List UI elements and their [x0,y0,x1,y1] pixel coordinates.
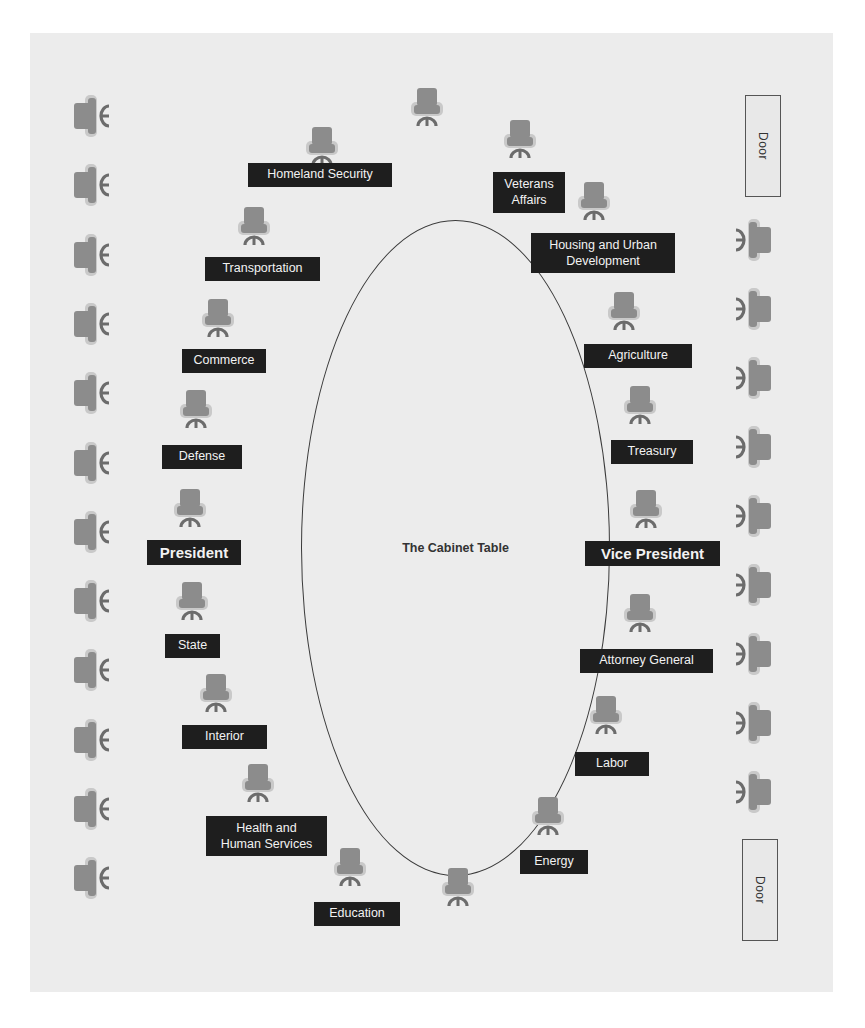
chair-icon [238,762,278,802]
chair-icon [234,205,274,245]
door-top: Door [745,95,781,197]
wall-chair-icon [733,355,773,401]
chair-icon [176,388,216,428]
cabinet-table: The Cabinet Table [301,220,610,876]
seat-label-energy: Energy [520,850,588,874]
seat-label-line: Human Services [212,836,321,852]
wall-chair-icon [733,700,773,746]
seat-label-state: State [165,634,220,658]
chair-icon [196,672,236,712]
chair-icon [500,118,540,158]
seat-label-line: Development [537,253,669,269]
seat-label-veterans-affairs: VeteransAffairs [493,172,565,213]
chair-icon [198,297,238,337]
seat-label-president: President [147,540,241,565]
seat-label-attorney-general: Attorney General [580,649,713,673]
wall-chair-icon [733,424,773,470]
chair-icon [302,125,342,165]
seat-label-line: Affairs [499,192,559,208]
chair-icon [574,180,614,220]
seat-label-line: Housing and Urban [537,237,669,253]
wall-chair-icon [72,855,112,901]
seat-label-line: Health and [212,820,321,836]
wall-chair-icon [72,370,112,416]
wall-chair-icon [72,232,112,278]
wall-chair-icon [733,217,773,263]
wall-chair-icon [733,631,773,677]
chair-icon [620,384,660,424]
wall-chair-icon [733,769,773,815]
seat-label-health-human-services: Health andHuman Services [206,816,327,856]
wall-chair-icon [72,301,112,347]
wall-chair-icon [733,562,773,608]
chair-icon [626,488,666,528]
seat-label-homeland-security: Homeland Security [248,163,392,187]
door-bottom: Door [742,839,778,941]
seat-label-commerce: Commerce [182,349,266,373]
seat-label-defense: Defense [162,445,242,469]
wall-chair-icon [72,440,112,486]
wall-chair-icon [72,647,112,693]
wall-chair-icon [72,509,112,555]
wall-chair-icon [72,578,112,624]
wall-chair-icon [72,717,112,763]
door-bottom-label: Door [753,876,767,904]
seat-label-labor: Labor [575,752,649,776]
chair-icon [604,290,644,330]
chair-icon-bottom-end [438,866,478,906]
seat-label-transportation: Transportation [205,257,320,281]
chair-icon [586,694,626,734]
seat-label-treasury: Treasury [611,440,693,464]
seat-label-education: Education [314,902,400,926]
wall-chair-icon [733,493,773,539]
seat-label-line: Veterans [499,176,559,192]
cabinet-table-label: The Cabinet Table [302,541,609,555]
chair-icon [172,580,212,620]
cabinet-room-floor: The Cabinet Table [30,33,833,992]
wall-chair-icon [72,93,112,139]
seat-label-housing-urban-development: Housing and UrbanDevelopment [531,233,675,273]
chair-icon [620,592,660,632]
wall-chair-icon [733,286,773,332]
door-top-label: Door [756,132,770,160]
chair-icon-top-end [407,86,447,126]
seat-label-interior: Interior [182,725,267,749]
seat-label-vice-president: Vice President [585,541,720,566]
chair-icon [528,795,568,835]
seat-label-agriculture: Agriculture [584,344,692,368]
chair-icon [170,487,210,527]
wall-chair-icon [72,162,112,208]
wall-chair-icon [72,786,112,832]
chair-icon [330,846,370,886]
